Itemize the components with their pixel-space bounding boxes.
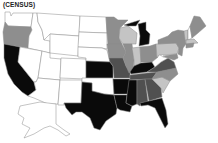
state-wa[interactable] [5, 12, 33, 27]
state-wy[interactable] [50, 34, 79, 56]
state-vt[interactable] [184, 30, 188, 40]
state-ak[interactable] [18, 102, 70, 138]
state-ks[interactable] [86, 61, 113, 78]
us-choropleth-map [0, 0, 218, 143]
state-ut[interactable] [38, 51, 61, 80]
state-wi[interactable] [119, 26, 137, 44]
state-nd[interactable] [79, 16, 107, 33]
state-ct[interactable] [186, 43, 194, 48]
state-nj[interactable] [178, 48, 183, 56]
state-me[interactable] [190, 16, 206, 38]
state-nm[interactable] [58, 80, 82, 105]
state-oh[interactable] [140, 44, 157, 62]
state-sd[interactable] [78, 32, 107, 49]
state-co[interactable] [60, 58, 86, 79]
state-io[interactable] [107, 44, 126, 58]
state-fl[interactable] [140, 98, 168, 128]
